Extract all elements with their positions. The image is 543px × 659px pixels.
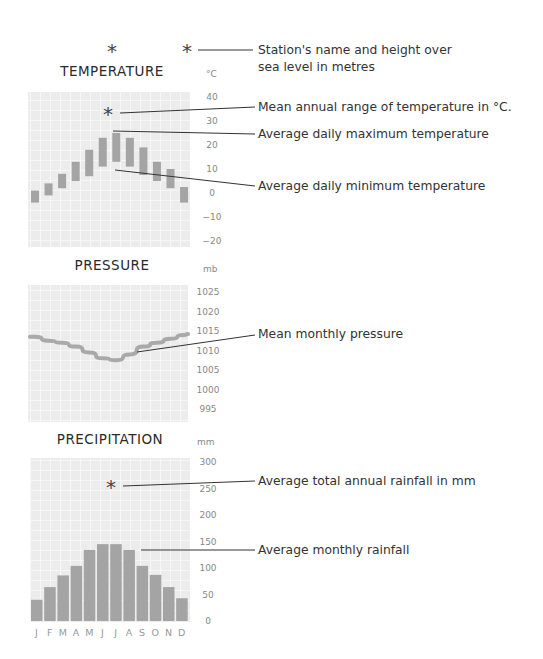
temperature-tick-label: 0 xyxy=(209,188,215,198)
rainfall-bar xyxy=(150,575,162,621)
precipitation-tick-label: 100 xyxy=(199,563,216,573)
pressure-tick-label: 1020 xyxy=(197,307,220,317)
pressure-tick-label: 1025 xyxy=(197,287,220,297)
precipitation-unit: mm xyxy=(197,437,215,447)
month-label: S xyxy=(139,627,145,638)
temperature-unit: °C xyxy=(206,69,217,79)
temperature-range-bar xyxy=(153,162,161,181)
temperature-max-note: Average daily maximum temperature xyxy=(258,127,489,141)
temperature-range-marker: * xyxy=(103,102,113,126)
pressure-tick-label: 995 xyxy=(199,404,216,414)
precipitation-tick-label: 150 xyxy=(199,537,216,547)
rainfall-bar xyxy=(163,587,175,621)
temperature-range-bar xyxy=(58,174,66,188)
month-label: N xyxy=(165,627,172,638)
pressure-note: Mean monthly pressure xyxy=(258,327,403,341)
temperature-title: TEMPERATURE xyxy=(59,63,164,79)
rainfall-bar xyxy=(84,550,96,621)
precipitation-bar-note: Average monthly rainfall xyxy=(258,543,409,557)
precipitation-total-note: Average total annual rainfall in mm xyxy=(258,474,476,488)
temperature-range-bar xyxy=(180,187,188,203)
temperature-range-bar xyxy=(139,147,147,175)
rainfall-bar xyxy=(123,550,134,621)
temperature-tick-label: 30 xyxy=(206,116,218,126)
temperature-min-note: Average daily minimum temperature xyxy=(258,179,485,193)
month-label: F xyxy=(47,627,52,638)
month-label: D xyxy=(178,627,185,638)
temperature-tick-label: 10 xyxy=(206,164,218,174)
month-label: M xyxy=(59,627,67,638)
pressure-tick-label: 1005 xyxy=(197,365,220,375)
pressure-tick-label: 1015 xyxy=(197,326,220,336)
precipitation-tick-label: 250 xyxy=(199,484,216,494)
temperature-range-bar xyxy=(72,162,80,181)
station-height-marker: * xyxy=(182,39,192,63)
precipitation-tick-label: 0 xyxy=(205,616,211,626)
pressure-tick-label: 1010 xyxy=(197,346,220,356)
rainfall-bar xyxy=(44,587,56,621)
temperature-range-bar xyxy=(167,169,175,188)
month-label: A xyxy=(73,627,80,638)
climate-chart-key: * * Station's name and height over sea l… xyxy=(0,0,543,659)
pressure-unit: mb xyxy=(203,264,218,274)
temperature-range-bar xyxy=(126,138,134,167)
temperature-range-bar xyxy=(112,133,120,162)
pressure-plot-area xyxy=(28,285,188,422)
precipitation-tick-label: 50 xyxy=(202,590,214,600)
temperature-tick-label: −20 xyxy=(203,236,222,246)
temperature-range-bar xyxy=(31,191,39,203)
precipitation-tick-label: 300 xyxy=(199,457,216,467)
temperature-tick-label: 20 xyxy=(206,140,218,150)
precipitation-title: PRECIPITATION xyxy=(57,431,163,447)
temperature-tick-label: −10 xyxy=(203,212,222,222)
pressure-tick-label: 1000 xyxy=(197,385,220,395)
rainfall-bar xyxy=(97,544,109,621)
temperature-range-bar xyxy=(99,138,107,167)
rainfall-bar xyxy=(31,600,43,621)
rainfall-bar xyxy=(71,566,83,621)
precipitation-tick-label: 200 xyxy=(199,510,216,520)
month-label: J xyxy=(113,627,117,638)
month-label: O xyxy=(152,627,159,638)
rainfall-bar xyxy=(57,575,69,621)
temperature-range-bar xyxy=(45,183,53,195)
temperature-tick-label: 40 xyxy=(206,92,218,102)
month-label: J xyxy=(100,627,104,638)
rainfall-bar xyxy=(137,566,149,621)
rainfall-bar xyxy=(176,598,188,621)
month-label: M xyxy=(85,627,93,638)
station-note-line1: Station's name and height over xyxy=(258,43,453,57)
station-note-line2: sea level in metres xyxy=(258,60,375,74)
temperature-range-bar xyxy=(85,150,93,176)
month-label: A xyxy=(126,627,133,638)
temperature-range-note: Mean annual range of temperature in °C. xyxy=(258,100,512,114)
pressure-title: PRESSURE xyxy=(75,257,150,273)
precipitation-total-marker: * xyxy=(106,475,116,499)
station-name-marker: * xyxy=(107,39,117,63)
rainfall-bar xyxy=(110,544,122,621)
month-label: J xyxy=(34,627,38,638)
